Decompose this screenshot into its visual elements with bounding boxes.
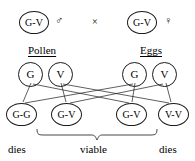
- gamete-egg-v-label: V: [161, 69, 169, 80]
- offspring-gv-right: G-V: [116, 103, 147, 126]
- genetics-cross-diagram: G-V ♂ × G-V ♀ Pollen Eggs G V G V G-G G-…: [0, 0, 195, 161]
- gamete-pollen-v-label: V: [57, 69, 65, 80]
- offspring-gv-left-label: G-V: [58, 110, 76, 120]
- offspring-vv: V-V: [158, 103, 189, 126]
- offspring-gg-label: G-G: [13, 110, 31, 120]
- offspring-gv-right-label: G-V: [123, 110, 141, 120]
- parent-female-genotype-label: G-V: [133, 18, 151, 28]
- gamete-egg-g-label: G: [131, 69, 139, 80]
- viable-brace: [37, 129, 157, 140]
- gamete-pollen-g: G: [18, 62, 43, 87]
- fate-label-dies-right: dies: [159, 144, 177, 155]
- parent-male-genotype-label: G-V: [25, 18, 43, 28]
- fate-label-viable: viable: [80, 144, 107, 155]
- fate-label-dies-left: dies: [8, 144, 26, 155]
- cross-symbol: ×: [92, 17, 98, 27]
- offspring-gv-left: G-V: [51, 103, 82, 126]
- male-symbol-icon: ♂: [55, 15, 63, 26]
- offspring-vv-label: V-V: [165, 110, 182, 120]
- gamete-pollen-g-label: G: [27, 69, 35, 80]
- gamete-egg-g: G: [122, 62, 147, 87]
- offspring-gg: G-G: [6, 103, 37, 126]
- pollen-label: Pollen: [28, 45, 56, 56]
- gamete-pollen-v: V: [48, 62, 73, 87]
- parent-male-genotype: G-V: [19, 11, 49, 34]
- parent-female-genotype: G-V: [127, 11, 157, 34]
- female-symbol-icon: ♀: [164, 15, 172, 26]
- gamete-egg-v: V: [152, 62, 177, 87]
- eggs-label: Eggs: [140, 45, 162, 56]
